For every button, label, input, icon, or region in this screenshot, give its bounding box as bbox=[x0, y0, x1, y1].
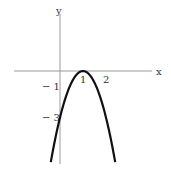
x-axis-label: x bbox=[156, 66, 162, 77]
x-tick-label: 1 bbox=[80, 74, 86, 85]
y-tick-label: − 1 bbox=[42, 81, 60, 92]
function-plot: x y 12− 1− 3 bbox=[0, 0, 171, 174]
y-axis-label: y bbox=[55, 5, 62, 16]
x-tick-label: 2 bbox=[103, 74, 109, 85]
y-tick-label: − 3 bbox=[42, 112, 60, 123]
